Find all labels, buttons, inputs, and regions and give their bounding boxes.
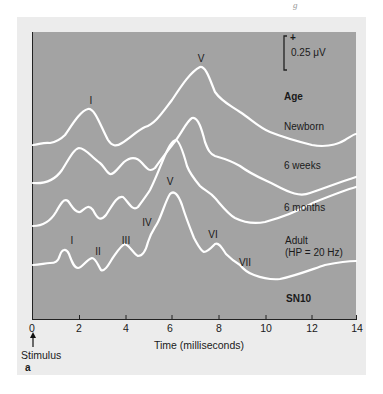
legend-adult-filter: (HP = 20 Hz) — [285, 248, 343, 258]
peak-label-adult-VII: VII — [239, 258, 251, 268]
scale-bar-label: 0.25 μV — [291, 48, 326, 58]
x-axis-label: Time (milliseconds) — [154, 340, 244, 351]
peak-label-adult-VI: VI — [208, 230, 217, 240]
trace-6months — [33, 140, 356, 226]
x-tick-0: 0 — [29, 323, 35, 334]
legend-adult: Adult — [285, 236, 308, 246]
legend-6months: 6 months — [284, 203, 325, 213]
subject-id: SN10 — [286, 294, 311, 304]
legend-6weeks: 6 weeks — [284, 161, 321, 171]
x-tick-6: 6 — [167, 323, 173, 334]
peak-label-adult-IV: IV — [142, 218, 151, 228]
peak-label-newborn-V: V — [198, 54, 205, 64]
peak-label-newborn-I: I — [90, 96, 93, 106]
x-ticks — [80, 315, 357, 319]
peak-label-6months-V: V — [167, 177, 174, 187]
scale-bar-polarity: + — [290, 33, 296, 43]
x-tick-14: 14 — [351, 323, 363, 334]
legend-title: Age — [284, 92, 303, 102]
x-tick-2: 2 — [76, 323, 82, 334]
panel-letter: a — [25, 363, 31, 373]
legend-newborn: Newborn — [284, 122, 324, 132]
x-tick-8: 8 — [216, 323, 222, 334]
chart-svg — [0, 0, 383, 394]
scale-bar-bracket — [284, 36, 287, 70]
peak-label-adult-I: I — [71, 236, 74, 246]
x-tick-12: 12 — [306, 323, 318, 334]
trace-newborn — [33, 67, 356, 146]
peak-label-adult-III: III — [122, 236, 130, 246]
stimulus-label: Stimulus — [21, 350, 61, 361]
x-tick-4: 4 — [123, 323, 129, 334]
peak-label-adult-II: II — [95, 247, 101, 257]
x-tick-10: 10 — [260, 323, 272, 334]
